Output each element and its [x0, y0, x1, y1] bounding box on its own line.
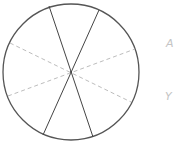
center-point [70, 71, 72, 73]
circle-diagram [0, 0, 174, 149]
label-a: A [166, 38, 174, 49]
label-b: Y [165, 91, 172, 102]
